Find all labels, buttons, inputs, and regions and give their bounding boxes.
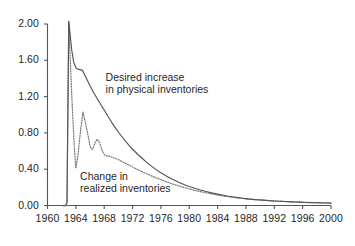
annotation-line: Change in: [80, 170, 170, 183]
inventory-investment-chart: 0.000.400.801.201.602.00 196019641968197…: [0, 0, 355, 246]
chart-canvas: [0, 0, 355, 246]
x-tick-label: 2000: [311, 212, 351, 224]
change-realized-annotation: Change inrealized inventories: [80, 170, 170, 195]
annotation-line: Desired increase: [106, 71, 209, 84]
y-tick-label: 0.40: [6, 162, 39, 174]
y-tick-label: 0.80: [6, 126, 39, 138]
desired-increase-annotation: Desired increasein physical inventories: [106, 71, 209, 96]
annotation-line: realized inventories: [80, 182, 170, 195]
y-tick-label: 0.00: [6, 199, 39, 211]
annotation-line: in physical inventories: [106, 83, 209, 96]
y-tick-label: 2.00: [6, 17, 39, 29]
y-tick-label: 1.20: [6, 90, 39, 102]
y-tick-label: 1.60: [6, 53, 39, 65]
